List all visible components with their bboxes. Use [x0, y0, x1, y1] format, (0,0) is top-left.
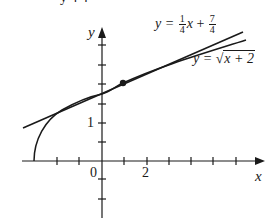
graph-canvas	[0, 0, 271, 222]
cut-off-text: y 4 4	[60, 0, 88, 5]
tangent-line	[23, 32, 243, 128]
tangent-label-plus: +	[193, 16, 208, 31]
intercept-fraction: 74	[209, 14, 216, 35]
tangent-line-label: y = 14x + 74	[155, 14, 217, 35]
sqrt-label-prefix: y =	[193, 51, 216, 66]
y-axis-arrow-icon	[98, 27, 106, 38]
sqrt-curve-label: y = √x + 2	[193, 52, 255, 66]
slope-fraction: 14	[179, 14, 186, 35]
y-axis-label: y	[88, 25, 95, 40]
tangent-line-figure: y 4 4 y x 0 2 1 y = 14x + 74 y = √x + 2	[0, 0, 271, 222]
x-axis-label: x	[255, 169, 262, 184]
sqrt-expression: √x + 2	[216, 52, 255, 66]
tangent-point	[120, 80, 126, 86]
radicand: x + 2	[223, 50, 255, 66]
tangent-label-prefix: y =	[155, 16, 178, 31]
origin-label: 0	[90, 166, 97, 180]
x-axis-arrow-icon	[255, 157, 265, 165]
y-tick-label-1: 1	[87, 116, 94, 130]
x-tick-label-2: 2	[142, 166, 149, 180]
